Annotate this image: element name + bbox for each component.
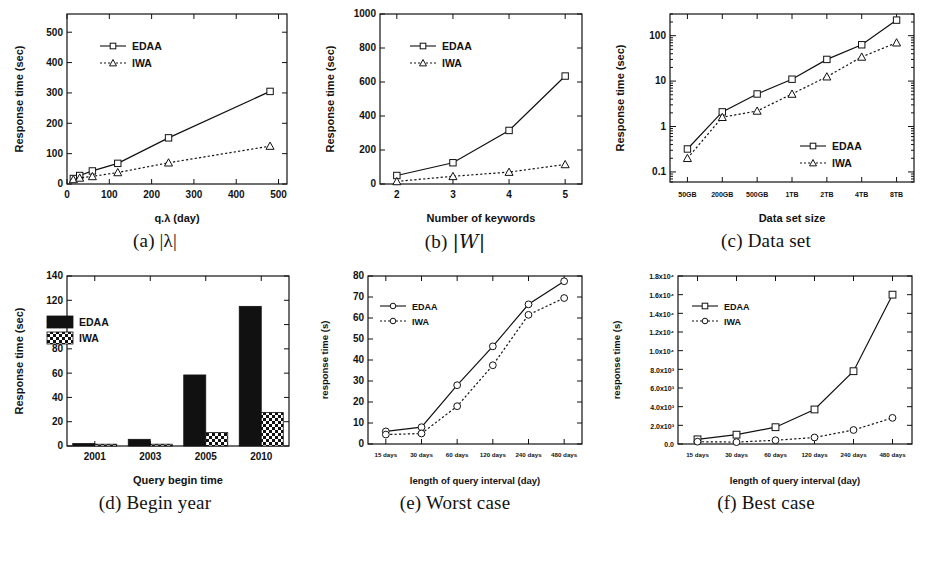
axis-text: q.λ (day) [154,212,200,224]
axis-text: 15 days [686,451,709,458]
axis-text: 200GB [711,191,733,198]
axis-text: response time (s) [319,321,330,400]
series-line-iwa [73,146,270,179]
plot-frame [380,14,582,184]
caption-a-prefix: (a) [133,230,155,251]
axis-text: 30 [353,375,365,386]
panel-a: 01002003004005000100200300400500q.λ (day… [0,0,310,262]
axis-text: Data set size [759,212,826,224]
axis-text: 0 [370,178,376,189]
bar-iwa [261,413,283,446]
caption-e: (e) Worst case [400,492,511,514]
legend-swatch-edaa [47,316,73,328]
axis-text: 200 [143,189,160,200]
legend: EDAAIWA [800,140,862,169]
axis-text: 200 [46,118,63,129]
series-line-edaa [687,20,896,149]
data-point-marker [114,168,122,175]
data-point-marker [850,368,857,375]
data-point-marker [893,39,901,46]
data-point-marker [382,431,389,438]
caption-b-prefix: (b) [425,231,448,252]
axis-text: 30 days [410,451,433,458]
axis-text: 1 [660,121,666,132]
figure-grid: 01002003004005000100200300400500q.λ (day… [0,0,932,575]
axis-text: 600 [359,76,376,87]
axis-text: 480 days [879,451,906,458]
axis-text: 5 [562,189,568,200]
data-point-marker [811,406,818,413]
axis-text: 3 [450,189,456,200]
axis-text: EDAA [412,302,438,312]
data-point-marker [454,403,461,410]
data-point-marker [267,88,273,94]
axis-text: IWA [442,57,462,69]
axis-text: 100 [46,148,63,159]
axis-text: 80 [52,343,64,354]
axis-text: IWA [724,317,741,327]
data-point-marker [733,431,740,438]
axis-text: 500GB [746,191,768,198]
bar-edaa [128,439,150,446]
data-point-marker [420,43,426,49]
chart-b: 020040060080010002345Number of keywordsR… [314,0,596,228]
axis-text: 240 days [515,451,542,458]
axis-text: EDAA [132,40,162,52]
axis-text: 500 [270,189,287,200]
axis-text: 300 [186,189,203,200]
axis-text: 100 [101,189,118,200]
data-point-marker [525,311,532,318]
axis-text: response time (s) [611,321,622,400]
axis-text: 300 [46,87,63,98]
axis-text: 30 days [725,451,748,458]
data-point-marker [110,43,116,49]
data-point-marker [702,318,708,324]
legend: EDAAIWA [410,40,472,69]
data-point-marker [266,142,274,149]
axis-text: 2TB [820,191,833,198]
data-point-marker [772,437,779,444]
axis-text: 2005 [195,451,218,462]
axis-text: 500 [46,27,63,38]
panel-b: 020040060080010002345Number of keywordsR… [310,0,600,262]
axis-text: 2.0x10³ [650,423,674,430]
axis-text: 120 [46,295,63,306]
data-point-marker [858,53,866,60]
axis-text: 60 days [446,451,469,458]
chart-d: 0204060801001201402001200320052010Query … [5,262,305,490]
axis-text: Response time (sec) [324,45,336,152]
axis-text: 0 [64,189,70,200]
data-point-marker [418,424,425,431]
axis-text: 70 [353,291,365,302]
axis-text: 50 [353,333,365,344]
caption-c-prefix: (c) [721,230,743,251]
data-point-marker [889,291,896,298]
axis-text: 4TB [855,191,868,198]
axis-text: 1.2x10⁴ [649,329,674,336]
axis-text: 40 [353,354,365,365]
axis-text: 400 [46,57,63,68]
data-point-marker [390,303,396,309]
bar-iwa [95,444,117,446]
caption-b: (b) |W| [425,230,486,253]
axis-text: EDAA [724,302,750,312]
data-point-marker [694,438,701,445]
axis-text: 1.8x10⁴ [649,273,674,280]
axis-text: 0.1 [652,166,666,177]
data-point-marker [893,17,899,23]
data-point-marker [702,303,708,309]
data-point-marker [561,295,568,302]
axis-text: 2003 [139,451,162,462]
bar-edaa [239,306,261,446]
caption-c-text: Data set [748,230,811,251]
panel-c: 0.111010050GB200GB500GB1TB2TB4TB8TBData … [600,0,932,262]
axis-text: 40 [52,392,64,403]
data-point-marker [110,60,117,66]
chart-a: 01002003004005000100200300400500q.λ (day… [5,0,305,228]
caption-e-prefix: (e) [400,492,422,513]
caption-f: (f) Best case [717,492,815,514]
axis-text: 1000 [354,8,377,19]
axis-text: 200 [359,144,376,155]
legend: EDAAIWA [380,302,438,327]
axis-text: 60 [353,312,365,323]
